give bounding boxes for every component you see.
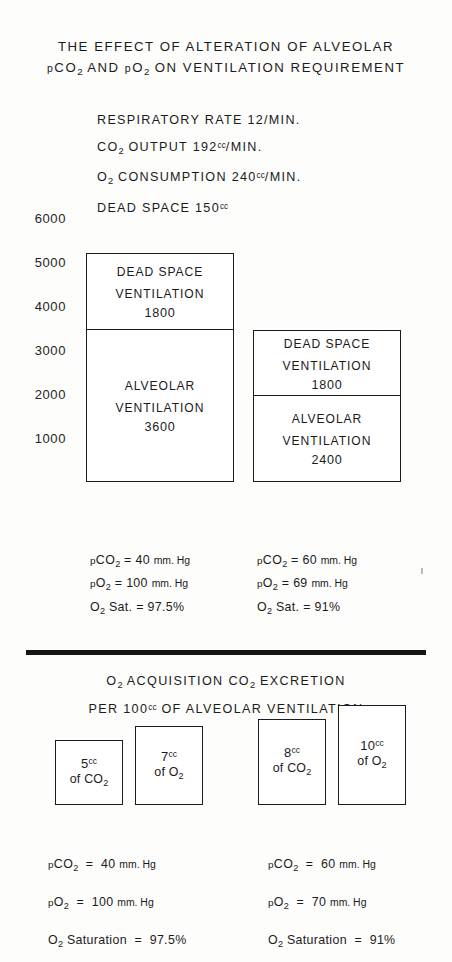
param-o2-consumption: O2 CONSUMPTION 240cc/MIN. xyxy=(97,163,397,194)
title-line-2: pCO2 AND pO2 ON VENTILATION REQUIREMENT xyxy=(0,57,452,82)
gas-box-right-co2: 8cc of CO2 xyxy=(258,719,326,805)
lower-readout-left-pco2: pCO2 = 40 mm. Hg xyxy=(48,845,156,887)
bar-left-alveolar-label-1: ALVEOLAR xyxy=(125,375,196,397)
bar-right-dead-space-label-1: DEAD SPACE xyxy=(284,333,371,355)
lower-heading-mid: ACQUISITION CO xyxy=(123,674,250,688)
lower-right-po2-unit: mm. Hg xyxy=(330,897,366,908)
ventilation-bar-chart: 6000 5000 4000 3000 2000 1000 DEAD SPACE… xyxy=(0,196,452,556)
y-axis-ticks: 6000 5000 4000 3000 2000 1000 xyxy=(10,196,66,556)
bar-right-dead-space-segment: DEAD SPACE VENTILATION 1800 xyxy=(254,331,400,396)
title-line-1: THE EFFECT OF ALTERATION OF ALVEOLAR xyxy=(0,36,452,57)
lower-right-pco2-unit: mm. Hg xyxy=(339,859,375,870)
lower-readout-right-pco2: pCO2 = 60 mm. Hg xyxy=(268,845,376,887)
upper-readout-left-sat: O2 Sat. = 97.5% xyxy=(90,596,184,623)
title-po2-base: O xyxy=(132,60,144,75)
lower-right-pco2-prefix: p xyxy=(268,859,274,870)
param-o2-consumption-unit: cc xyxy=(257,170,265,180)
gas-box-left-co2-unit: cc xyxy=(88,756,97,766)
gas-box-right-co2-of: of CO xyxy=(273,761,306,775)
upper-right-po2-unit: mm. Hg xyxy=(311,578,347,589)
lower-readout-right-po2: pO2 = 70 mm. Hg xyxy=(268,883,366,925)
upper-left-po2-prefix: p xyxy=(90,578,96,589)
lower-right-po2-prefix: p xyxy=(268,897,274,908)
section-divider xyxy=(26,650,426,655)
bar-right-alveolar-label-2: VENTILATION xyxy=(283,430,372,452)
upper-right-sat-value: 91% xyxy=(315,600,341,614)
gas-box-left-co2-of-sub: 2 xyxy=(103,777,108,787)
figure-title: THE EFFECT OF ALTERATION OF ALVEOLAR pCO… xyxy=(0,36,452,82)
upper-right-po2-value: 69 xyxy=(293,576,307,590)
upper-left-po2-unit: mm. Hg xyxy=(152,578,188,589)
bar-left-alveolar-value: 3600 xyxy=(145,419,176,436)
bar-right-alveolar-segment: ALVEOLAR VENTILATION 2400 xyxy=(254,396,400,481)
y-tick-3000: 3000 xyxy=(10,343,66,358)
upper-left-pco2-unit: mm. Hg xyxy=(154,555,190,566)
title-tail: ON VENTILATION REQUIREMENT xyxy=(150,60,406,75)
gas-box-right-co2-label: of CO2 xyxy=(273,760,311,781)
upper-left-pco2-prefix: p xyxy=(90,555,96,566)
upper-right-sat-sub: 2 xyxy=(267,606,272,616)
param-o2-consumption-base: O xyxy=(97,171,108,185)
y-tick-1000: 1000 xyxy=(10,431,66,446)
gas-box-right-o2-amount: 10cc xyxy=(360,736,383,753)
lower-heading-line-1: O2 ACQUISITION CO2 EXCRETION xyxy=(0,670,452,696)
gas-box-left-co2: 5cc of CO2 xyxy=(55,740,123,805)
upper-readout-right-sat: O2 Sat. = 91% xyxy=(257,596,340,623)
gas-box-right-o2-label: of O2 xyxy=(357,753,386,774)
param-co2-output-post: /MIN. xyxy=(226,140,263,154)
lower-heading-o2-base: O xyxy=(106,674,117,688)
param-co2-output: CO2 OUTPUT 192cc/MIN. xyxy=(97,133,397,164)
lower-left-po2-value: 100 xyxy=(92,895,114,909)
lower-left-sat-label: Saturation xyxy=(67,933,127,947)
gas-box-right-o2-value: 10 xyxy=(360,738,375,753)
lower-heading-per-base: PER 100 xyxy=(88,702,148,716)
gas-box-left-co2-amount: 5cc xyxy=(81,754,97,771)
gas-box-right-co2-of-sub: 2 xyxy=(306,767,311,777)
gas-box-right-o2-of-sub: 2 xyxy=(382,760,387,770)
param-o2-consumption-post: /MIN. xyxy=(265,171,302,185)
upper-left-sat-value: 97.5% xyxy=(148,600,185,614)
param-co2-output-unit: cc xyxy=(218,140,226,150)
gas-box-left-o2-amount: 7cc xyxy=(161,747,177,764)
lower-left-pco2-value: 40 xyxy=(101,857,115,871)
title-conjunction: AND xyxy=(83,60,125,75)
lower-left-pco2-unit: mm. Hg xyxy=(119,859,155,870)
lower-left-pco2-prefix: p xyxy=(48,859,54,870)
upper-right-pco2-value: 60 xyxy=(302,553,316,567)
bar-left-dead-space-label-1: DEAD SPACE xyxy=(117,261,204,283)
title-pco2-base: CO xyxy=(54,60,77,75)
bar-right-dead-space-label-2: VENTILATION xyxy=(283,355,372,377)
upper-left-po2-sub: 2 xyxy=(106,582,111,592)
upper-right-po2-sub: 2 xyxy=(273,582,278,592)
ventilation-figure: THE EFFECT OF ALTERATION OF ALVEOLAR pCO… xyxy=(0,0,452,962)
bar-left: DEAD SPACE VENTILATION 1800 ALVEOLAR VEN… xyxy=(86,253,234,482)
gas-box-left-o2: 7cc of O2 xyxy=(135,726,203,805)
gas-box-right-co2-amount: 8cc xyxy=(284,743,300,760)
lower-right-sat-sub: 2 xyxy=(278,939,283,949)
param-co2-output-mid: OUTPUT 192 xyxy=(124,140,218,154)
bar-right: DEAD SPACE VENTILATION 1800 ALVEOLAR VEN… xyxy=(253,330,401,482)
upper-right-pco2-unit: mm. Hg xyxy=(321,555,357,566)
gas-box-left-o2-unit: cc xyxy=(168,749,177,759)
lower-left-po2-unit: mm. Hg xyxy=(117,897,153,908)
bar-right-dead-space-value: 1800 xyxy=(312,377,343,394)
param-o2-consumption-mid: CONSUMPTION 240 xyxy=(113,171,256,185)
lower-readout-left-sat: O2 Saturation = 97.5% xyxy=(48,921,187,962)
y-tick-4000: 4000 xyxy=(10,299,66,314)
param-co2-output-base: CO xyxy=(97,140,119,154)
bar-left-dead-space-value: 1800 xyxy=(145,305,176,322)
lower-right-pco2-value: 60 xyxy=(321,857,335,871)
bar-left-alveolar-segment: ALVEOLAR VENTILATION 3600 xyxy=(87,330,233,481)
gas-box-right-o2-of: of O xyxy=(357,754,381,768)
param-respiratory-rate: RESPIRATORY RATE 12/MIN. xyxy=(97,108,397,133)
lower-left-po2-sub: 2 xyxy=(64,901,69,911)
bar-left-alveolar-label-2: VENTILATION xyxy=(116,397,205,419)
lower-left-sat-sub: 2 xyxy=(58,939,63,949)
lower-right-po2-sub: 2 xyxy=(284,901,289,911)
gas-box-left-o2-label: of O2 xyxy=(154,764,183,785)
upper-right-pco2-prefix: p xyxy=(257,555,263,566)
upper-left-sat-sub: 2 xyxy=(100,606,105,616)
bar-right-alveolar-value: 2400 xyxy=(312,452,343,469)
y-tick-5000: 5000 xyxy=(10,255,66,270)
bar-left-dead-space-label-2: VENTILATION xyxy=(116,283,205,305)
